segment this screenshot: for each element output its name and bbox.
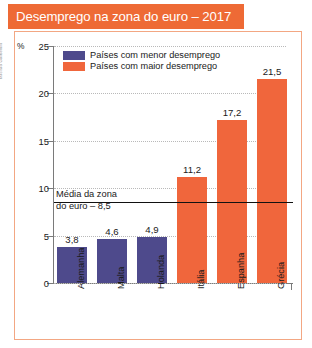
legend-item-label: Países com maior desemprego <box>90 61 217 71</box>
legend-item[interactable]: Países com maior desemprego <box>63 61 220 71</box>
average-annotation-label: Média da zona do euro – 8,5 <box>56 189 117 212</box>
x-axis-category-label: Grécia <box>276 262 286 289</box>
legend-swatch-icon <box>63 51 85 60</box>
x-axis-category-label: Itália <box>196 270 206 289</box>
x-axis-category-label: Malta <box>116 267 126 289</box>
gridline <box>54 93 286 94</box>
y-axis-tick-label: 20 <box>15 88 49 99</box>
bar-value-label: 4,6 <box>90 226 134 237</box>
gridline <box>54 141 286 142</box>
bar-value-label: 11,2 <box>170 164 214 175</box>
y-axis-tick-label: 10 <box>15 183 49 194</box>
bar[interactable] <box>257 79 287 283</box>
chart-title-banner: Desemprego na zona do euro – 2017 <box>8 4 244 29</box>
legend-swatch-icon <box>63 62 85 71</box>
x-axis-category-label: Holanda <box>156 255 166 289</box>
bar[interactable] <box>177 177 207 283</box>
page-title: Desemprego na zona do euro – 2017 <box>8 9 231 24</box>
legend-item-label: Países com menor desemprego <box>90 50 220 60</box>
average-annotation-line2: do euro – 8,5 <box>56 201 117 212</box>
bar-value-label: 17,2 <box>210 107 254 118</box>
bar-value-label: 3,8 <box>50 234 94 245</box>
legend-item[interactable]: Países com menor desemprego <box>63 50 220 60</box>
bar-value-label: 21,5 <box>250 66 294 77</box>
y-axis-tick-label: 25 <box>15 41 49 52</box>
average-annotation-line1: Média da zona <box>56 189 117 200</box>
chart-frame: % 0510152025 Países com menor desemprego… <box>14 31 302 340</box>
gridline <box>54 46 286 47</box>
x-axis-category-label: Alemanha <box>76 248 86 289</box>
gridline <box>54 283 286 284</box>
bar-value-label: 4,9 <box>130 224 174 235</box>
chart-legend: Países com menor desempregoPaíses com ma… <box>63 50 220 71</box>
x-axis-category-label: Espanha <box>236 253 246 289</box>
illustrator-credit: Tarcísio Garbellini <box>0 20 3 80</box>
y-axis-tick-label: 0 <box>15 278 49 289</box>
x-axis-endcap <box>291 283 292 290</box>
y-axis-line <box>53 46 54 284</box>
y-axis-tick-label: 15 <box>15 135 49 146</box>
y-axis-tick-label: 5 <box>15 230 49 241</box>
